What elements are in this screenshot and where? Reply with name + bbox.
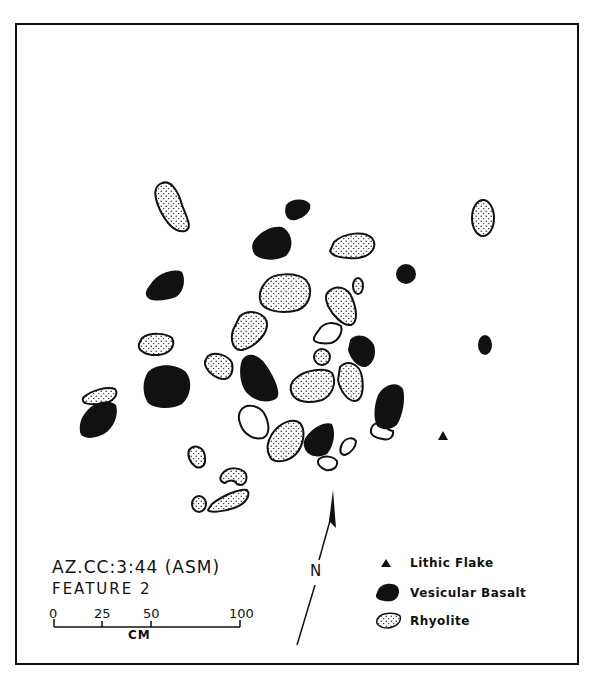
legend-rhyolite: Rhyolite	[410, 614, 470, 628]
scale-tick-0: 0	[49, 606, 57, 621]
scale-tick-50: 50	[143, 606, 160, 621]
feature-title: FEATURE 2	[52, 580, 152, 598]
legend-basalt-icon	[376, 584, 399, 602]
lithic-flake-marker	[438, 431, 448, 440]
scale-tick-25: 25	[94, 606, 111, 621]
legend-symbols	[376, 559, 400, 628]
site-id: AZ.CC:3:44 (ASM)	[52, 557, 220, 577]
scale-tick-100: 100	[229, 606, 254, 621]
vesicular-basalt-stones	[80, 200, 492, 457]
legend-triangle-icon	[381, 559, 391, 567]
rhyolite-stones	[83, 182, 494, 512]
legend-vesicular-basalt: Vesicular Basalt	[410, 586, 526, 600]
scale-unit: CM	[128, 628, 151, 642]
north-label: N	[310, 562, 321, 580]
legend-lithic-flake: Lithic Flake	[410, 556, 494, 570]
legend-rhyolite-icon	[377, 613, 401, 628]
